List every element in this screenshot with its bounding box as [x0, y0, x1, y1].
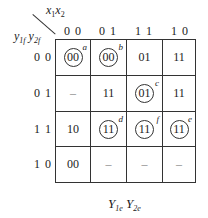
output-variable-label: Y1e Y2e	[108, 196, 141, 213]
stable-state-circle: 11	[99, 120, 118, 139]
cell-value: –	[176, 157, 182, 172]
table-cell: 00a	[56, 40, 91, 76]
table-cell: –	[127, 147, 163, 182]
state-tag: c	[155, 78, 159, 88]
cell-value: –	[142, 157, 148, 172]
table-cell: 10	[56, 112, 91, 147]
state-tag: a	[83, 42, 88, 52]
column-header: 1 1	[126, 24, 162, 39]
column-header: 1 0	[162, 24, 198, 39]
stable-state-circle: 01	[135, 84, 154, 103]
cell-value: –	[70, 86, 76, 101]
table-cell: 00	[56, 147, 91, 182]
flow-table-grid: 00a00b0111–1101c111011d11f11e00–––	[55, 39, 196, 183]
cell-value: 10	[67, 122, 79, 137]
table-cell: –	[91, 147, 127, 182]
column-header: 0 1	[90, 24, 126, 39]
cell-value: 01	[139, 50, 151, 65]
stable-state-circle: 00	[99, 48, 118, 67]
column-variable-label: x1x2	[46, 3, 65, 19]
stable-state-circle: 11	[170, 120, 189, 139]
table-cell: –	[163, 147, 195, 182]
table-cell: 00b	[91, 40, 127, 76]
table-cell: –	[56, 76, 91, 112]
stable-state-circle: 00	[64, 48, 83, 67]
state-tag: d	[119, 114, 124, 124]
table-cell: 11f	[127, 112, 163, 147]
row-header: 1 1	[24, 122, 52, 137]
table-cell: 11	[91, 76, 127, 112]
cell-value: 11	[103, 86, 115, 101]
table-cell: 11d	[91, 112, 127, 147]
table-cell: 01c	[127, 76, 163, 112]
column-header: 0 0	[55, 24, 91, 39]
cell-value: –	[106, 157, 112, 172]
cell-value: 11	[173, 50, 185, 65]
table-cell: 01	[127, 40, 163, 76]
table-cell: 11	[163, 76, 195, 112]
row-variable-label: y1f y2f	[14, 29, 40, 45]
cell-value: 11	[173, 86, 185, 101]
stable-state-circle: 11	[135, 120, 154, 139]
state-tag: f	[156, 114, 159, 124]
row-header: 0 1	[24, 86, 52, 101]
row-header: 0 0	[24, 50, 52, 65]
row-header: 1 0	[24, 157, 52, 172]
state-tag: b	[119, 42, 124, 52]
state-tag: e	[188, 114, 192, 124]
cell-value: 00	[67, 157, 79, 172]
table-cell: 11	[163, 40, 195, 76]
table-cell: 11e	[163, 112, 195, 147]
